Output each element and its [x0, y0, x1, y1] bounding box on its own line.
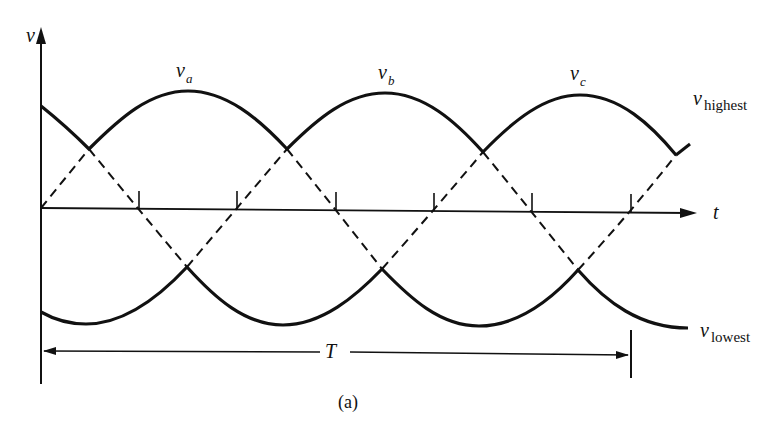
figure-caption-text: (a) — [338, 392, 358, 412]
v-highest-end-mark — [676, 144, 690, 155]
period-label-text: T — [325, 340, 336, 362]
v-highest-curve — [41, 91, 676, 155]
vb-label-subscript: b — [388, 73, 395, 88]
figure-caption: (a) — [338, 392, 358, 413]
vb-label-main: v — [378, 61, 387, 83]
v-lowest-label: vlowest — [700, 320, 750, 340]
period-label: T — [325, 341, 336, 361]
vb-label: vb — [378, 62, 394, 82]
v-highest-label-main: v — [693, 87, 702, 109]
t-axis-label-text: t — [713, 201, 719, 223]
v-lowest-label-subscript: lowest — [711, 329, 750, 345]
va-label-main: v — [176, 59, 185, 81]
v-highest-label: vhighest — [693, 88, 747, 108]
vc-label-subscript: c — [580, 74, 586, 89]
vc-label: vc — [570, 63, 586, 83]
t-axis — [41, 191, 697, 218]
period-left-arrow-icon — [43, 347, 56, 355]
period-right-arrow-icon — [616, 351, 629, 359]
vc-label-main: v — [570, 62, 579, 84]
v-highest-label-subscript: highest — [704, 97, 747, 113]
three-phase-voltage-diagram: v t va vb vc vhighest vlowest T (a) — [0, 0, 784, 428]
y-axis-label: v — [26, 25, 35, 45]
t-axis-arrow-icon — [680, 208, 697, 218]
va-label-subscript: a — [186, 71, 193, 86]
v-lowest-curve — [41, 267, 688, 328]
v-lowest-label-main: v — [700, 319, 709, 341]
t-axis-label: t — [713, 202, 719, 222]
y-axis-label-text: v — [26, 24, 35, 46]
va-label: va — [176, 60, 192, 80]
y-axis-arrow-icon — [36, 27, 46, 44]
